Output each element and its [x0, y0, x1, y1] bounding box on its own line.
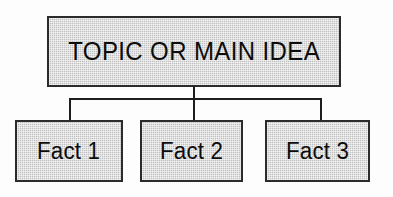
- connector-drop-line-fact-1: [69, 98, 71, 121]
- fact-node-1[interactable]: Fact 1: [15, 120, 123, 182]
- diagram-canvas: TOPIC OR MAIN IDEA Fact 1 Fact 2 Fact 3: [0, 0, 393, 197]
- connector-drop-line-fact-2: [193, 98, 195, 121]
- fact-node-2[interactable]: Fact 2: [140, 120, 243, 182]
- fact-node-3-label: Fact 3: [286, 140, 349, 163]
- connector-drop-line-fact-3: [320, 98, 322, 121]
- topic-node-label: TOPIC OR MAIN IDEA: [68, 39, 320, 64]
- connector-horizontal-bus: [69, 98, 322, 100]
- fact-node-1-label: Fact 1: [37, 140, 100, 163]
- fact-node-3[interactable]: Fact 3: [265, 120, 370, 182]
- topic-node[interactable]: TOPIC OR MAIN IDEA: [47, 16, 341, 87]
- fact-node-2-label: Fact 2: [160, 140, 223, 163]
